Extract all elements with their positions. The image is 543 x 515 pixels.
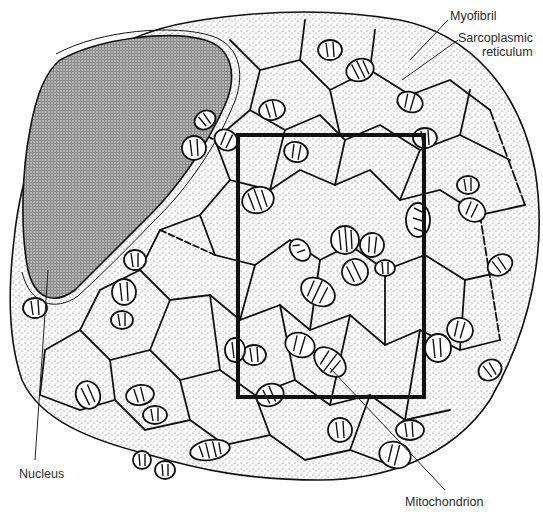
mitochondrion: [23, 298, 47, 318]
mitochondrion: [406, 203, 430, 237]
mitochondrion: [182, 136, 206, 160]
mitochondrion: [155, 461, 175, 479]
nucleus-label: Nucleus: [19, 467, 64, 481]
mitochondrion: [143, 406, 167, 424]
mitochondrion: [318, 40, 342, 60]
sarcoplasmic-reticulum-label-line1: Sarcoplasmic: [458, 31, 533, 45]
mitochondrion: [112, 279, 136, 305]
mitochondrion: [457, 176, 479, 194]
mitochondrion-label: Mitochondrion: [405, 495, 484, 509]
mitochondrion: [425, 334, 451, 362]
mitochondrion: [396, 420, 424, 440]
sarcoplasmic-reticulum-label-line2: reticulum: [482, 45, 533, 59]
myofibril-label: Myofibril: [450, 9, 497, 23]
mitochondrion: [225, 338, 245, 362]
muscle-fiber-diagram: [0, 0, 543, 515]
mitochondrion: [375, 260, 395, 276]
mitochondrion: [133, 451, 151, 469]
mitochondrion: [331, 226, 359, 254]
mitochondrion: [328, 418, 352, 442]
mitochondrion: [124, 250, 146, 270]
mitochondrion: [111, 311, 133, 329]
